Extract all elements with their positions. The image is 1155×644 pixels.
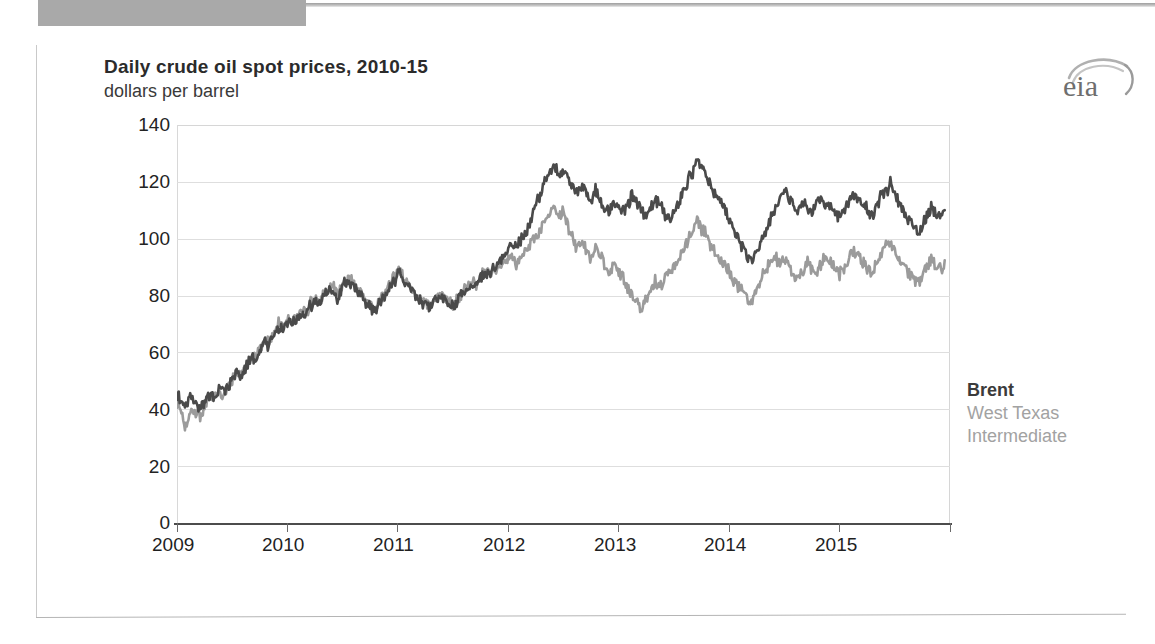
- y-tick-60: 60: [104, 342, 170, 364]
- wti-line: [177, 206, 945, 431]
- x-tick-mark-2013: [618, 523, 619, 532]
- x-tick-label-2014: 2014: [704, 534, 746, 556]
- slide-header-band: [38, 0, 306, 26]
- series-lines: [177, 125, 950, 523]
- y-tick-80: 80: [104, 285, 170, 307]
- y-tick-140: 140: [104, 114, 170, 136]
- page-frame-bottom-border: [36, 614, 1126, 618]
- x-tick-mark-2014: [729, 523, 730, 532]
- chart-subtitle: dollars per barrel: [104, 81, 239, 102]
- chart-legend: Brent West Texas Intermediate: [967, 379, 1147, 448]
- legend-item-wti-line1: West Texas: [967, 402, 1147, 425]
- y-tick-100: 100: [104, 228, 170, 250]
- x-tick-label-2012: 2012: [483, 534, 525, 556]
- page-frame-left-border: [36, 45, 37, 618]
- legend-item-brent: Brent: [967, 379, 1147, 402]
- x-tick-mark-2016: [950, 523, 951, 532]
- screenshot-root: Daily crude oil spot prices, 2010-15 dol…: [0, 0, 1155, 644]
- y-tick-20: 20: [104, 456, 170, 478]
- y-tick-0: 0: [104, 512, 170, 534]
- brent-line: [177, 159, 945, 411]
- plot-area: [177, 125, 950, 523]
- x-axis-line: [174, 523, 952, 525]
- chart-title: Daily crude oil spot prices, 2010-15: [104, 56, 428, 78]
- legend-item-wti-line2: Intermediate: [967, 425, 1147, 448]
- x-tick-mark-2009: [177, 523, 178, 532]
- y-tick-120: 120: [104, 171, 170, 193]
- x-tick-mark-2010: [287, 523, 288, 532]
- x-tick-mark-2011: [397, 523, 398, 532]
- x-tick-label-2011: 2011: [373, 534, 414, 556]
- y-tick-40: 40: [104, 399, 170, 421]
- eia-logo: eia: [1055, 52, 1145, 104]
- x-tick-mark-2015: [839, 523, 840, 532]
- x-tick-mark-2012: [508, 523, 509, 532]
- slide-header-rule: [306, 3, 1155, 7]
- x-tick-label-2010: 2010: [262, 534, 304, 556]
- eia-logo-text: eia: [1063, 69, 1098, 102]
- x-tick-label-2013: 2013: [594, 534, 636, 556]
- x-tick-label-2009: 2009: [152, 534, 194, 556]
- x-tick-label-2015: 2015: [815, 534, 857, 556]
